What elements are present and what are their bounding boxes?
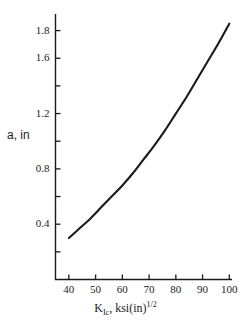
x-tick-label: 70 <box>136 283 162 295</box>
chart-figure: 0.40.81.21.61.8 405060708090100 a, in KI… <box>0 0 251 326</box>
x-tick-label: 90 <box>190 283 216 295</box>
y-tick-marks <box>56 31 61 252</box>
y-tick-label: 1.8 <box>24 24 50 36</box>
y-tick-label: 1.6 <box>24 51 50 63</box>
y-tick-label: 0.4 <box>24 217 50 229</box>
y-axis-label: a, in <box>7 128 30 142</box>
x-axis-label-superscript: 1/2 <box>147 300 157 309</box>
x-tick-label: 40 <box>56 283 82 295</box>
x-tick-label: 100 <box>216 283 242 295</box>
x-tick-marks <box>69 275 229 280</box>
x-axis-label-middle: , ksi(in) <box>109 301 146 315</box>
x-axis-label: KIc, ksi(in)1/2 <box>0 300 251 317</box>
y-tick-label: 0.8 <box>24 162 50 174</box>
data-series-curve <box>69 24 229 238</box>
x-tick-label: 80 <box>163 283 189 295</box>
x-tick-label: 50 <box>83 283 109 295</box>
x-axis-label-base: K <box>94 301 103 315</box>
x-tick-label: 60 <box>109 283 135 295</box>
y-tick-label: 1.2 <box>24 107 50 119</box>
